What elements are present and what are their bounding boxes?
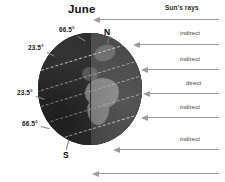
sun-ray-5-label: indirect xyxy=(180,104,200,110)
sun-ray-2 xyxy=(133,41,219,48)
arrowhead-icon xyxy=(113,147,120,153)
latitude-label-tropic-capricorn: 23.5° xyxy=(17,89,33,96)
sun-ray-2-label: indirect xyxy=(180,30,200,36)
sun-ray-3 xyxy=(141,66,219,73)
arrow-shaft xyxy=(100,19,219,20)
latitude-label-antarctic-circle: 66.5° xyxy=(22,120,38,127)
latitude-label-tropic-cancer: 23.5° xyxy=(28,44,44,51)
arrowhead-icon xyxy=(93,17,100,23)
page-title: June xyxy=(68,3,96,15)
sun-ray-4-label: direct xyxy=(186,80,201,86)
south-pole-label: S xyxy=(63,150,69,160)
seasons-diagram: June Sun's rays indirect indirect direct… xyxy=(0,0,225,182)
arrowhead-icon xyxy=(141,67,148,73)
sun-ray-6-label: indirect xyxy=(180,136,200,142)
arrow-shaft xyxy=(148,69,219,70)
earth-globe xyxy=(38,33,142,145)
arrow-shaft xyxy=(140,44,219,45)
arrowhead-icon xyxy=(141,115,148,121)
arrow-shaft xyxy=(148,117,219,118)
arrow-shaft xyxy=(150,93,219,94)
sun-ray-5 xyxy=(141,114,219,121)
sun-ray-4 xyxy=(143,90,219,97)
arrow-shaft xyxy=(99,173,219,174)
sun-ray-3-label: indirect xyxy=(180,56,200,62)
suns-rays-label: Sun's rays xyxy=(165,4,199,11)
globe-texture xyxy=(38,33,142,145)
sun-ray-1 xyxy=(93,16,219,23)
arrow-shaft xyxy=(120,149,219,150)
sun-ray-6 xyxy=(113,146,219,153)
sun-ray-7 xyxy=(92,170,219,177)
latitude-label-arctic-circle: 66.5° xyxy=(59,26,75,33)
arrowhead-icon xyxy=(143,91,150,97)
arrowhead-icon xyxy=(92,171,99,177)
